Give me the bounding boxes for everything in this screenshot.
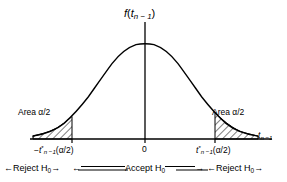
x-axis-variable-label: tn −1 <box>258 131 272 141</box>
center-zero-text: 0 <box>142 144 147 154</box>
decision-region-accept-center: ←Accept H0→ <box>72 164 204 174</box>
crit-right-argument: (α/2) <box>213 145 231 155</box>
accept-subscript: 0 <box>162 167 166 174</box>
crit-left-argument: (α/2) <box>56 145 74 155</box>
density-paren-close: ) <box>152 7 156 19</box>
crit-left-subscript: n −1 <box>44 148 56 155</box>
reject-right-arrow-start: ← <box>207 163 216 173</box>
crit-right-subscript: n −1 <box>201 148 213 155</box>
area-label-left: Area α/2 <box>18 108 50 117</box>
accept-rule-left <box>81 166 125 167</box>
decision-region-reject-right: ←Reject H0→ <box>207 164 263 174</box>
reject-right-arrow-end: → <box>254 163 263 173</box>
decision-region-reject-left: ←Reject H0→ <box>4 164 60 174</box>
tick-label-center-zero: 0 <box>142 145 147 154</box>
axis-t-subscript: n −1 <box>260 134 272 141</box>
tick-label-right-critical: t*n −1(α/2) <box>196 145 231 155</box>
t-distribution-figure: f(tn − 1) Area α/2 Area α/2 −t*n −1(α/2)… <box>0 0 287 182</box>
accept-rule-right <box>165 166 195 167</box>
accept-arrow-start: ← <box>72 163 81 173</box>
reject-right-text: Reject H <box>216 163 251 173</box>
reject-left-text: Reject H <box>13 163 48 173</box>
reject-left-arrow-end: → <box>51 163 60 173</box>
density-function-label: f(tn − 1) <box>124 8 155 21</box>
density-t-subscript: n − 1 <box>134 12 152 21</box>
tick-label-left-critical: −t*n −1(α/2) <box>34 145 73 155</box>
accept-arrow-end: → <box>195 163 204 173</box>
accept-text: Accept H <box>125 163 162 173</box>
reject-left-arrow-start: ← <box>4 163 13 173</box>
area-label-right: Area α/2 <box>212 108 244 117</box>
